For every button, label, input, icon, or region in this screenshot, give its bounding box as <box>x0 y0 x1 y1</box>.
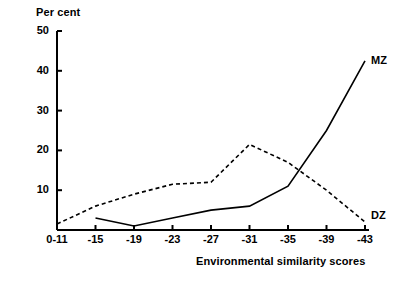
y-tick-label: 10 <box>23 183 49 195</box>
series-line-dz <box>57 144 365 224</box>
x-tick-label: -31 <box>230 233 270 245</box>
chart-series-layer <box>57 61 365 226</box>
series-label-mz: MZ <box>371 54 387 66</box>
x-tick-label: -19 <box>114 233 154 245</box>
x-axis-title: Environmental similarity scores <box>196 255 365 267</box>
x-tick-label: -39 <box>307 233 347 245</box>
x-tick-label: -43 <box>345 233 385 245</box>
series-line-mz <box>96 61 366 226</box>
x-tick-label: -15 <box>76 233 116 245</box>
x-tick-label: -23 <box>153 233 193 245</box>
y-tick-label: 40 <box>23 64 49 76</box>
y-tick-label: 20 <box>23 143 49 155</box>
x-tick-label: -35 <box>268 233 308 245</box>
y-tick-label: 30 <box>23 104 49 116</box>
x-tick-label: -27 <box>191 233 231 245</box>
series-label-dz: DZ <box>371 209 386 221</box>
chart-container: Per cent 1020304050 0-11-15-19-23-27-31-… <box>0 0 408 283</box>
y-tick-label: 50 <box>23 24 49 36</box>
x-tick-label: 0-11 <box>37 233 77 245</box>
chart-axes <box>57 31 369 230</box>
